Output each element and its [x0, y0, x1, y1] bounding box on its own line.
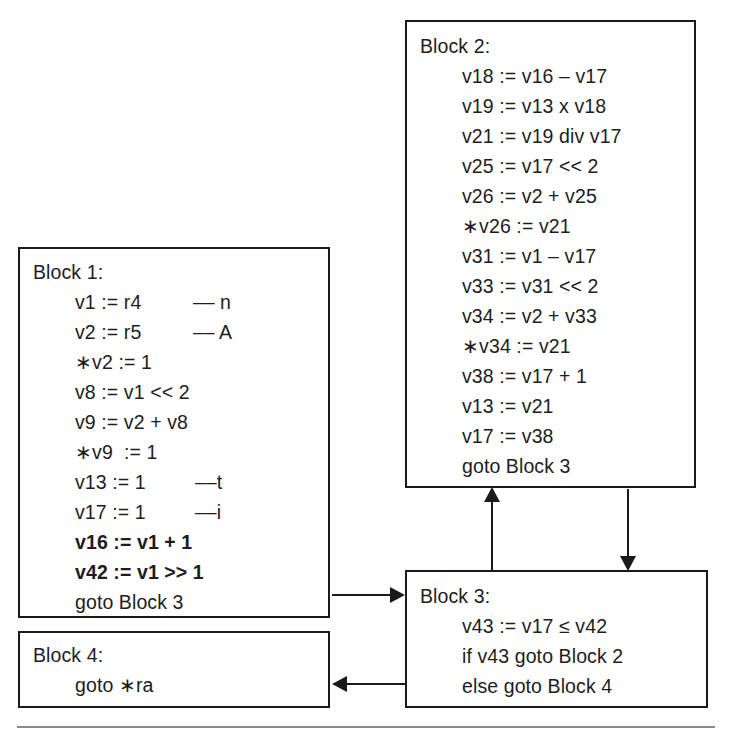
block-2-label: Block 2: [407, 36, 490, 56]
block-1-line-3: ∗v2 := 1 [20, 352, 152, 372]
block-1-line-6: ∗v9 := 1 [20, 442, 157, 462]
edge-block3-to-block2-arrowhead [484, 487, 500, 502]
edge-block1-to-block3-arrowhead [390, 587, 405, 603]
block-1-body: Block 1: v1 := r4 –– n v2 := r5 –– A ∗v2… [20, 249, 328, 616]
block-2-line-4: v25 := v17 << 2 [407, 156, 598, 176]
block-1-comment-2: –– A [193, 322, 232, 342]
block-2-line-5: v26 := v2 + v25 [407, 186, 597, 206]
block-2-line-10: ∗v34 := v21 [407, 336, 571, 356]
block-2-line-9: v34 := v2 + v33 [407, 306, 597, 326]
block-3-line-3: else goto Block 4 [407, 676, 612, 696]
block-4-body: Block 4: goto ∗ra [20, 633, 328, 706]
block-1-line-7: v13 := 1 [20, 472, 146, 492]
edge-block1-to-block3-line [332, 594, 392, 596]
block-2-line-8: v33 := v31 << 2 [407, 276, 598, 296]
block-1-comment-7: ––t [195, 472, 222, 492]
edge-block3-to-block4-line [344, 683, 406, 685]
block-2-line-14: goto Block 3 [407, 456, 571, 476]
block-3-body: Block 3: v43 := v17 ≤ v42 if v43 goto Bl… [407, 572, 706, 706]
edge-block2-to-block3-arrowhead [620, 556, 636, 571]
block-3-label: Block 3: [407, 586, 490, 606]
block-1-label: Block 1: [20, 262, 103, 282]
block-2-body: Block 2: v18 := v16 – v17 v19 := v13 x v… [407, 22, 694, 486]
edge-block3-to-block2-line [491, 490, 493, 570]
block-1-comment-1: –– n [193, 292, 231, 312]
block-1-line-8: v17 := 1 [20, 502, 146, 522]
block-1-line-5: v9 := v2 + v8 [20, 412, 188, 432]
block-1: Block 1: v1 := r4 –– n v2 := r5 –– A ∗v2… [18, 247, 330, 618]
block-3: Block 3: v43 := v17 ≤ v42 if v43 goto Bl… [405, 570, 708, 708]
block-3-line-2: if v43 goto Block 2 [407, 646, 623, 666]
block-1-line-9: v16 := v1 + 1 [20, 532, 192, 552]
block-2-line-3: v21 := v19 div v17 [407, 126, 622, 146]
block-2-line-13: v17 := v38 [407, 426, 554, 446]
block-1-comment-8: ––i [195, 502, 221, 522]
block-2-line-2: v19 := v13 x v18 [407, 96, 606, 116]
edge-block3-to-block4-arrowhead [332, 676, 347, 692]
footer-divider [17, 726, 715, 728]
block-1-line-2: v2 := r5 [20, 322, 141, 342]
block-2-line-7: v31 := v1 – v17 [407, 246, 596, 266]
block-2-line-1: v18 := v16 – v17 [407, 66, 607, 86]
block-4-label: Block 4: [20, 645, 103, 665]
block-1-line-11: goto Block 3 [20, 592, 184, 612]
block-1-line-10: v42 := v1 >> 1 [20, 562, 204, 582]
block-2-line-11: v38 := v17 + 1 [407, 366, 587, 386]
block-2-line-6: ∗v26 := v21 [407, 216, 571, 236]
block-4-line-1: goto ∗ra [20, 675, 154, 695]
block-3-line-1: v43 := v17 ≤ v42 [407, 616, 607, 636]
block-2: Block 2: v18 := v16 – v17 v19 := v13 x v… [405, 20, 696, 488]
block-1-line-1: v1 := r4 [20, 292, 141, 312]
diagram-canvas: Block 2: v18 := v16 – v17 v19 := v13 x v… [0, 0, 732, 740]
block-1-line-4: v8 := v1 << 2 [20, 382, 190, 402]
block-4: Block 4: goto ∗ra [18, 631, 330, 708]
block-2-line-12: v13 := v21 [407, 396, 554, 416]
